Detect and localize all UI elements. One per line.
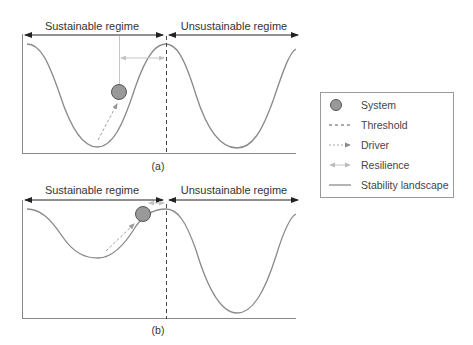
panel-a: Sustainable regime Unsustainable regime …: [22, 20, 298, 172]
panel-a-stability-landscape-curve: [27, 44, 296, 148]
legend-label-stability-landscape: Stability landscape: [361, 179, 449, 191]
legend-item-driver: Driver: [321, 135, 453, 155]
panel-a-system-ball: [112, 85, 127, 100]
legend-item-stability-landscape: Stability landscape: [321, 175, 453, 195]
panel-a-driver-arrow: [98, 104, 117, 140]
legend-item-resilience: Resilience: [321, 155, 453, 175]
legend-label-resilience: Resilience: [361, 159, 409, 171]
dashed-line-icon: [321, 115, 361, 135]
panel-b-system-ball: [136, 207, 151, 222]
solid-line-icon: [321, 175, 361, 195]
panel-a-regime-right-label: Unsustainable regime: [181, 20, 287, 32]
legend-label-threshold: Threshold: [361, 119, 408, 131]
panel-b-caption: (b): [152, 324, 165, 336]
circle-icon: [321, 95, 361, 115]
legend-item-system: System: [321, 95, 453, 115]
dotted-arrow-icon: [321, 135, 361, 155]
panel-b-stability-landscape-curve: [27, 209, 296, 313]
panel-a-caption: (a): [152, 160, 165, 172]
panel-b-regime-left-label: Sustainable regime: [45, 184, 139, 196]
double-arrow-icon: [321, 155, 361, 175]
panel-b: Sustainable regime Unsustainable regime …: [22, 184, 298, 336]
legend: System Threshold Driver Resilience Stabi…: [320, 92, 454, 198]
legend-label-system: System: [361, 99, 396, 111]
panel-b-regime-right-label: Unsustainable regime: [181, 184, 287, 196]
panel-a-regime-left-label: Sustainable regime: [45, 20, 139, 32]
legend-label-driver: Driver: [361, 139, 389, 151]
legend-item-threshold: Threshold: [321, 115, 453, 135]
